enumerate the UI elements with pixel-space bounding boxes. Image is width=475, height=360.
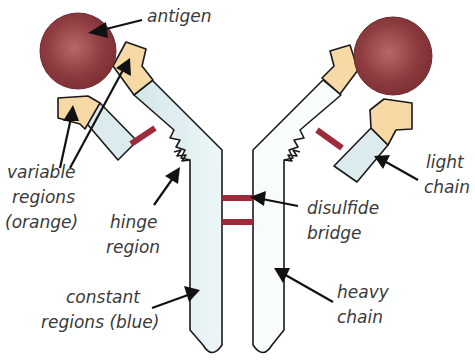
label-heavy-chain-1: heavy (337, 282, 390, 302)
pointer-hinge (154, 178, 173, 205)
pointer-heavy-chain (282, 273, 333, 302)
label-disulfide-bridge-1: disulfide (307, 198, 379, 218)
label-light-chain-2: chain (424, 177, 470, 197)
pointer-variable-1 (60, 118, 71, 168)
disulfide-bridge-right-arm (317, 130, 342, 148)
antibody-diagram: antigen variable regions (orange) hinge … (0, 0, 475, 360)
label-constant-regions-1: constant (66, 287, 141, 307)
disulfide-bridge-left-arm (131, 128, 155, 144)
label-disulfide-bridge-2: bridge (307, 223, 362, 243)
label-variable-regions-2: regions (12, 187, 75, 207)
label-heavy-chain-2: chain (337, 307, 383, 327)
label-antigen: antigen (147, 6, 212, 26)
label-hinge-region-2: region (106, 237, 160, 257)
label-constant-regions-2: regions (blue) (41, 312, 159, 332)
arrowhead-icon (165, 167, 180, 184)
label-variable-regions-3: (orange) (5, 212, 78, 232)
label-hinge-region-1: hinge (110, 212, 158, 232)
antigen-right (354, 17, 432, 95)
label-light-chain-1: light (426, 152, 465, 172)
pointer-light-chain (386, 162, 418, 180)
pointer-constant (152, 295, 188, 308)
label-variable-regions-1: variable (7, 162, 76, 182)
pointer-antigen (102, 20, 142, 30)
